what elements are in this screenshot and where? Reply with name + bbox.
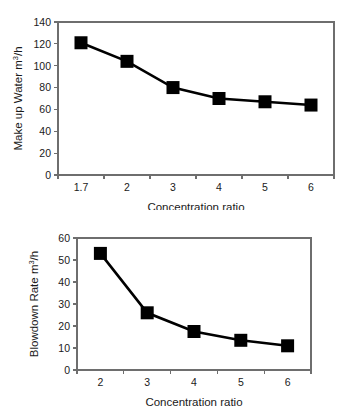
y-tick-label: 40	[58, 276, 70, 288]
data-point-marker	[167, 81, 180, 94]
data-point-marker	[141, 306, 154, 319]
x-axis-title: Concentration ratio	[147, 201, 244, 210]
y-tick-label: 120	[33, 38, 51, 50]
x-tick-label: 2	[124, 181, 130, 193]
y-tick-label: 20	[39, 147, 51, 159]
y-tick-label: 100	[33, 60, 51, 72]
data-point-marker	[121, 55, 134, 68]
y-tick-label: 40	[39, 125, 51, 137]
y-tick-label: 10	[58, 342, 70, 354]
y-tick-label: 60	[39, 103, 51, 115]
data-point-marker	[259, 95, 272, 108]
x-tick-label: 4	[216, 181, 222, 193]
data-point-marker	[188, 325, 201, 338]
data-point-marker	[75, 36, 88, 49]
x-tick-label: 6	[308, 181, 314, 193]
y-axis-title: Blowdown Rate m3/h	[27, 251, 40, 357]
x-tick-label: 5	[238, 376, 244, 388]
x-tick-label: 3	[144, 376, 150, 388]
x-tick-label: 1.7	[74, 181, 89, 193]
x-tick-label: 4	[191, 376, 197, 388]
y-tick-label: 30	[58, 298, 70, 310]
data-point-marker	[234, 334, 247, 347]
chart-blowdown-rate: 010203040506023456Concentration ratioBlo…	[0, 210, 349, 413]
svg-text:Blowdown Rate m3/h: Blowdown Rate m3/h	[27, 251, 40, 357]
y-tick-label: 60	[58, 232, 70, 244]
make-up-water-plot: 0204060801001201401.723456Concentration …	[0, 0, 349, 210]
y-tick-label: 80	[39, 81, 51, 93]
y-tick-label: 0	[64, 364, 70, 376]
y-tick-label: 140	[33, 16, 51, 28]
y-tick-label: 0	[45, 169, 51, 181]
x-tick-label: 3	[170, 181, 176, 193]
y-tick-label: 50	[58, 254, 70, 266]
series-line	[81, 43, 311, 105]
x-tick-label: 5	[262, 181, 268, 193]
y-tick-label: 20	[58, 320, 70, 332]
data-point-marker	[213, 92, 226, 105]
y-axis-title: Make up Water m3/h	[11, 46, 24, 150]
x-axis-title: Concentration ratio	[145, 396, 242, 408]
svg-text:Make up Water m3/h: Make up Water m3/h	[11, 46, 24, 150]
data-point-marker	[94, 247, 107, 260]
x-tick-label: 2	[97, 376, 103, 388]
data-point-marker	[305, 99, 318, 112]
chart-make-up-water: 0204060801001201401.723456Concentration …	[0, 0, 349, 210]
blowdown-rate-plot: 010203040506023456Concentration ratioBlo…	[0, 210, 349, 413]
x-tick-label: 6	[285, 376, 291, 388]
data-point-marker	[281, 339, 294, 352]
